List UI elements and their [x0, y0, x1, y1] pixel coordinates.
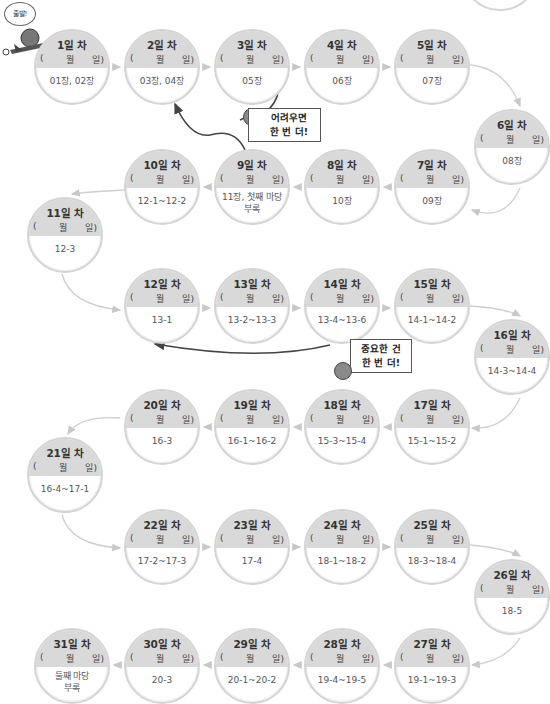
day-title: 26일 차: [476, 567, 548, 582]
day-8: 8일 차 (월일) 10장: [304, 149, 380, 225]
day-30: 30일 차 (월일) 20-3: [124, 628, 200, 704]
day-title: 2일 차: [126, 37, 198, 52]
date-field[interactable]: (월일): [130, 292, 194, 304]
date-field[interactable]: (월일): [310, 53, 374, 65]
date-field[interactable]: (월일): [400, 292, 464, 304]
day-title: 15일 차: [396, 276, 468, 291]
date-field[interactable]: (월일): [480, 133, 544, 145]
date-field[interactable]: (월일): [40, 53, 104, 65]
day-5: 5일 차 (월일) 07장: [394, 29, 470, 105]
date-field[interactable]: (월일): [400, 173, 464, 185]
day-19: 19일 차 (월일) 16-1~16-2: [214, 389, 290, 465]
day-20: 20일 차 (월일) 16-3: [124, 389, 200, 465]
day-title: 6일 차: [476, 117, 548, 132]
day-7: 7일 차 (월일) 09장: [394, 149, 470, 225]
day-content: 12-3: [33, 243, 97, 255]
date-field[interactable]: (월일): [220, 173, 284, 185]
day-content: 15-3~15-4: [310, 435, 374, 447]
date-field[interactable]: (월일): [480, 343, 544, 355]
day-24: 24일 차 (월일) 18-1~18-2: [304, 509, 380, 585]
date-field[interactable]: (월일): [130, 533, 194, 545]
day-content: 01장, 02장: [40, 75, 104, 87]
day-content: 13-2~13-3: [220, 314, 284, 326]
day-content: 19-4~19-5: [310, 674, 374, 686]
day-9: 9일 차 (월일) 11장, 첫째 마당부록: [214, 149, 290, 225]
date-field[interactable]: (월일): [40, 652, 104, 664]
day-content: 10장: [310, 195, 374, 207]
day-content: 15-1~15-2: [400, 435, 464, 447]
date-field[interactable]: (월일): [220, 292, 284, 304]
day-27: 27일 차 (월일) 19-1~19-3: [394, 628, 470, 704]
day-title: 19일 차: [216, 397, 288, 412]
day-1: 1일 차 (월일) 01장, 02장: [34, 29, 110, 105]
date-field[interactable]: (월일): [33, 461, 97, 473]
date-field[interactable]: (월일): [310, 413, 374, 425]
day-title: 11일 차: [29, 205, 101, 220]
day-15: 15일 차 (월일) 14-1~14-2: [394, 268, 470, 344]
day-title: 24일 차: [306, 517, 378, 532]
day-13: 13일 차 (월일) 13-2~13-3: [214, 268, 290, 344]
callout-retry-hard: 어려우면 한 번 더!: [248, 108, 321, 142]
date-field[interactable]: (월일): [220, 652, 284, 664]
day-title: 1일 차: [36, 37, 108, 52]
date-field[interactable]: (월일): [310, 533, 374, 545]
day-content: 18-3~18-4: [400, 555, 464, 567]
day-title: 29일 차: [216, 636, 288, 651]
day-25: 25일 차 (월일) 18-3~18-4: [394, 509, 470, 585]
day-title: 13일 차: [216, 276, 288, 291]
day-title: 5일 차: [396, 37, 468, 52]
day-content: 03장, 04장: [130, 75, 194, 87]
day-title: 22일 차: [126, 517, 198, 532]
day-2: 2일 차 (월일) 03장, 04장: [124, 29, 200, 105]
date-field[interactable]: (월일): [310, 173, 374, 185]
day-title: 21일 차: [29, 445, 101, 460]
day-title: 10일 차: [126, 157, 198, 172]
date-field[interactable]: (월일): [130, 53, 194, 65]
day-title: 4일 차: [306, 37, 378, 52]
day-content: 17-2~17-3: [130, 555, 194, 567]
day-12: 12일 차 (월일) 13-1: [124, 268, 200, 344]
day-content: 13-4~13-6: [310, 314, 374, 326]
day-content: 20-3: [130, 674, 194, 686]
date-field[interactable]: (월일): [130, 652, 194, 664]
day-content: 18-5: [480, 605, 544, 617]
day-title: 25일 차: [396, 517, 468, 532]
day-28: 28일 차 (월일) 19-4~19-5: [304, 628, 380, 704]
date-field[interactable]: (월일): [400, 533, 464, 545]
callout-retry-important: 중요한 건 한 번 더!: [350, 339, 412, 373]
day-14: 14일 차 (월일) 13-4~13-6: [304, 268, 380, 344]
day-title: 9일 차: [216, 157, 288, 172]
day-17: 17일 차 (월일) 15-1~15-2: [394, 389, 470, 465]
date-field[interactable]: (월일): [220, 53, 284, 65]
day-3: 3일 차 (월일) 05장: [214, 29, 290, 105]
date-field[interactable]: (월일): [480, 583, 544, 595]
day-title: 12일 차: [126, 276, 198, 291]
day-title: 8일 차: [306, 157, 378, 172]
day-content: 13-1: [130, 314, 194, 326]
date-field[interactable]: (월일): [310, 652, 374, 664]
date-field[interactable]: (월일): [220, 413, 284, 425]
day-content: 14-3~14-4: [480, 365, 544, 377]
day-4: 4일 차 (월일) 06장: [304, 29, 380, 105]
day-11: 11일 차 (월일) 12-3: [27, 197, 103, 273]
date-field[interactable]: (월일): [400, 413, 464, 425]
day-title: 23일 차: [216, 517, 288, 532]
date-field[interactable]: (월일): [130, 173, 194, 185]
day-content: 05장: [220, 75, 284, 87]
day-content: 09장: [400, 195, 464, 207]
date-field[interactable]: (월일): [400, 53, 464, 65]
date-field[interactable]: (월일): [33, 221, 97, 233]
day-title: 3일 차: [216, 37, 288, 52]
day-content: 18-1~18-2: [310, 555, 374, 567]
day-content: 20-1~20-2: [220, 674, 284, 686]
day-content: 11장, 첫째 마당부록: [220, 191, 284, 215]
date-field[interactable]: (월일): [400, 652, 464, 664]
day-title: 31일 차: [36, 636, 108, 651]
day-title: 14일 차: [306, 276, 378, 291]
date-field[interactable]: (월일): [130, 413, 194, 425]
day-title: 16일 차: [476, 327, 548, 342]
day-title: 27일 차: [396, 636, 468, 651]
date-field[interactable]: (월일): [310, 292, 374, 304]
laughing-face-icon: [334, 362, 352, 380]
date-field[interactable]: (월일): [220, 533, 284, 545]
